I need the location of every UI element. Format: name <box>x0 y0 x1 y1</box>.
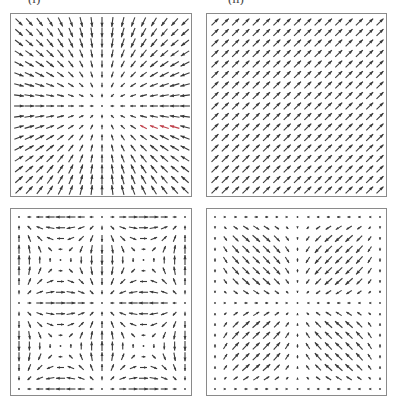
arrow-icon <box>111 50 114 58</box>
arrow-icon <box>56 226 65 229</box>
arrow-icon <box>232 332 239 339</box>
arrow-icon <box>151 366 157 369</box>
arrow-icon <box>263 155 270 162</box>
arrow-icon <box>296 323 298 325</box>
arrow-icon <box>68 237 74 240</box>
arrow-icon <box>366 124 373 131</box>
arrow-icon <box>366 145 373 152</box>
arrow-icon <box>273 166 280 173</box>
arrow-icon <box>67 227 75 230</box>
arrow-icon <box>273 113 280 120</box>
arrow-icon <box>368 365 371 369</box>
arrow-icon <box>90 28 93 38</box>
arrow-icon <box>214 313 216 315</box>
arrow-icon <box>223 257 227 263</box>
arrow-icon <box>46 388 55 391</box>
arrow-icon <box>101 278 103 285</box>
arrow-icon <box>304 124 311 131</box>
arrow-icon <box>173 353 176 361</box>
arrow-icon <box>121 155 124 163</box>
arrow-icon <box>130 83 135 87</box>
arrow-icon <box>18 321 20 328</box>
arrow-icon <box>377 19 384 26</box>
arrow-icon <box>315 145 322 152</box>
arrow-icon <box>224 377 226 379</box>
arrow-icon <box>232 19 239 26</box>
arrow-icon <box>284 50 291 57</box>
arrow-icon <box>234 216 236 218</box>
arrow-icon <box>14 104 24 107</box>
arrow-icon <box>15 40 23 46</box>
arrow-icon <box>263 267 270 274</box>
arrow-icon <box>181 51 189 56</box>
arrow-icon <box>25 146 34 151</box>
arrow-icon <box>294 29 301 36</box>
arrow-icon <box>161 29 167 36</box>
field-point-icon <box>297 216 299 218</box>
arrow-icon <box>15 176 22 182</box>
arrow-icon <box>56 312 65 315</box>
arrow-icon <box>69 355 72 358</box>
arrow-icon <box>335 364 342 370</box>
arrow-icon <box>35 115 44 118</box>
arrow-icon <box>101 245 104 254</box>
arrow-icon <box>68 95 74 97</box>
arrow-icon <box>90 115 93 118</box>
field-point-icon <box>101 216 103 218</box>
arrow-icon <box>140 105 147 107</box>
arrow-icon <box>284 134 291 141</box>
arrow-icon <box>160 94 169 97</box>
arrow-icon <box>150 115 158 118</box>
arrow-icon <box>170 94 180 97</box>
arrow-icon <box>163 268 166 274</box>
arrow-icon <box>37 377 43 380</box>
arrow-icon <box>140 135 146 140</box>
arrow-icon <box>286 365 289 369</box>
arrow-icon <box>170 146 179 151</box>
arrow-icon <box>358 388 360 390</box>
arrow-icon <box>57 323 64 325</box>
arrow-icon <box>79 236 84 241</box>
arrow-icon <box>149 302 158 305</box>
arrow-icon <box>253 166 260 173</box>
arrow-icon <box>121 17 124 27</box>
arrow-icon <box>294 40 301 47</box>
arrow-icon <box>80 28 83 37</box>
arrow-icon <box>368 257 372 263</box>
arrow-icon <box>57 72 63 77</box>
arrow-icon <box>335 50 342 57</box>
arrow-icon <box>304 92 311 99</box>
arrow-icon <box>163 257 165 264</box>
arrow-icon <box>232 82 239 89</box>
arrow-icon <box>325 187 332 194</box>
arrow-icon <box>90 353 93 361</box>
arrow-icon <box>346 29 353 36</box>
arrow-icon <box>150 291 158 294</box>
arrow-icon <box>379 355 381 358</box>
arrow-icon <box>263 103 270 110</box>
arrow-icon <box>173 245 176 253</box>
arrow-icon <box>170 73 179 77</box>
arrow-icon <box>263 19 270 26</box>
arrow-icon <box>336 226 342 230</box>
vector-field-arrows <box>207 209 388 397</box>
arrow-icon <box>263 235 270 242</box>
arrow-icon <box>315 187 322 194</box>
arrow-icon <box>78 312 84 315</box>
arrow-icon <box>57 280 64 282</box>
arrow-icon <box>232 124 239 131</box>
arrow-icon <box>335 187 342 194</box>
arrow-icon <box>142 270 146 272</box>
arrow-icon <box>35 135 44 139</box>
arrow-icon <box>273 176 280 183</box>
field-point-icon <box>184 216 186 218</box>
arrow-icon <box>304 103 311 110</box>
arrow-icon <box>325 176 332 183</box>
arrow-icon <box>346 103 353 110</box>
arrow-icon <box>90 105 94 107</box>
arrow-icon <box>130 237 136 240</box>
arrow-icon <box>336 312 342 316</box>
arrow-icon <box>224 322 227 326</box>
arrow-icon <box>212 113 219 120</box>
arrow-icon <box>101 312 103 316</box>
